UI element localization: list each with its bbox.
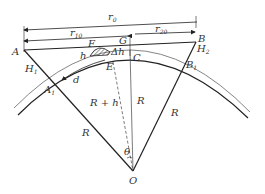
label-r10: r10 [70,27,83,39]
label-R-mid: R [136,95,145,106]
label-R-right: R [170,107,179,118]
geometry-diagram: A B C E F G O r0 r10 r20 H1 H2 A1 B1 h Δ… [0,0,265,194]
label-B1: B1 [185,59,197,71]
outer-arc-thin [14,50,250,112]
label-O: O [129,175,137,186]
label-E: E [105,61,114,72]
label-R-left: R [81,127,90,138]
line-A-O [24,50,133,171]
label-H2: H2 [196,43,210,55]
label-R-plus-h: R + h [89,97,119,108]
label-G: G [119,35,127,46]
label-r0: r0 [108,11,117,23]
arc-theta [127,157,132,158]
obstacle [90,48,110,56]
label-F: F [87,38,96,49]
label-C: C [133,52,141,63]
label-theta: θ [124,146,130,157]
label-delta-h: Δh [110,46,125,57]
label-d: d [73,74,79,85]
dim-r0 [24,22,197,30]
line-C-O [130,50,133,171]
label-A: A [11,46,19,57]
label-H1: H1 [24,63,38,75]
label-h: h [80,50,86,61]
line-AB [24,42,196,50]
label-r20: r20 [155,23,168,35]
